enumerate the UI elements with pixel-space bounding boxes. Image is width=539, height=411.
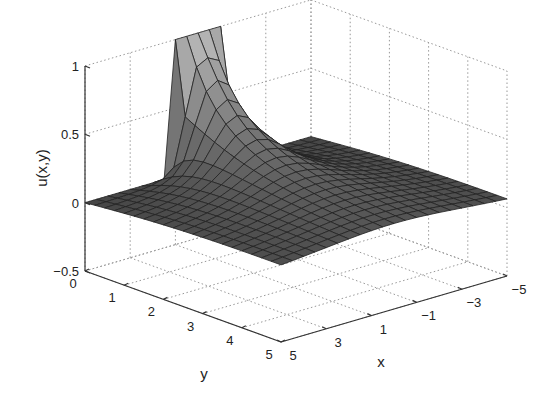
x-tick-label: 3 [335,335,342,350]
x-axis-label: x [377,353,385,370]
surface-mesh [85,26,507,265]
y-tick-label: 0 [69,276,76,291]
x-tick-label: −5 [512,282,527,297]
z-tick-label: 0.5 [61,127,79,142]
y-tick-label: 2 [148,304,155,319]
y-tick-label: 1 [109,290,116,305]
y-tick-label: 4 [226,333,233,348]
z-axis-label: u(x,y) [33,149,50,187]
x-tick-label: −3 [466,295,481,310]
x-tick-label: 5 [289,348,296,363]
surface-plot: −0.500.51012345531−1−3−5 u(x,y) y x [0,0,539,411]
y-axis-label: y [200,365,208,382]
z-tick-label: 0 [72,196,79,211]
y-tick-label: 5 [265,347,272,362]
z-tick-label: 1 [72,59,79,74]
y-tick-label: 3 [187,319,194,334]
x-tick-label: −1 [421,308,436,323]
x-tick-label: 1 [380,322,387,337]
